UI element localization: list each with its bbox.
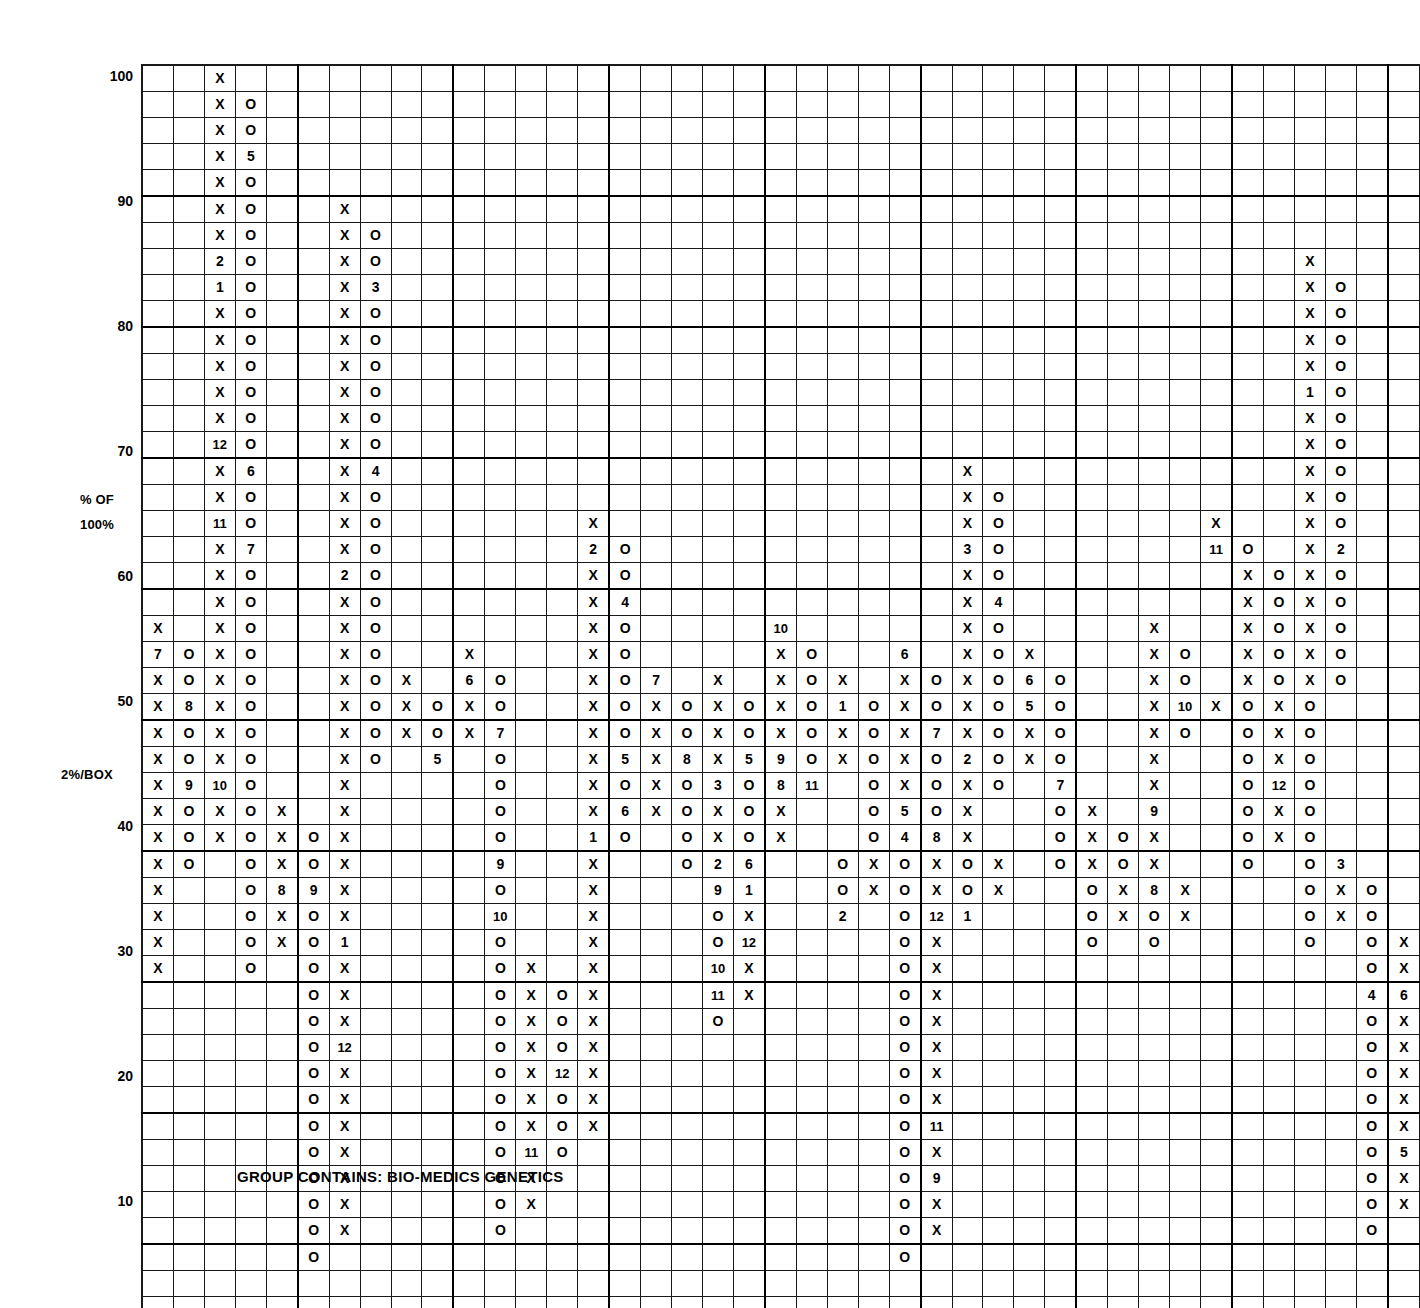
pnf-empty-cell (1014, 851, 1045, 878)
pnf-empty-cell (391, 196, 422, 223)
pnf-mark-cell: O (1325, 275, 1356, 301)
pnf-empty-cell (547, 825, 578, 852)
pnf-empty-cell (733, 275, 764, 301)
pnf-mark-cell: X (329, 668, 360, 694)
pnf-empty-cell (453, 511, 484, 537)
pnf-empty-cell (1045, 223, 1076, 249)
pnf-empty-cell (1076, 563, 1107, 590)
pnf-empty-cell (422, 616, 453, 642)
pnf-mark-cell: O (235, 930, 266, 956)
pnf-empty-cell (641, 537, 672, 563)
pnf-mark-cell: 10 (1170, 694, 1201, 721)
pnf-empty-cell (547, 1244, 578, 1271)
pnf-empty-cell (641, 327, 672, 354)
pnf-mark-cell: O (235, 118, 266, 144)
pnf-empty-cell (609, 1271, 640, 1297)
pnf-empty-cell (422, 1297, 453, 1308)
pnf-empty-cell (173, 589, 204, 616)
pnf-empty-cell (1170, 301, 1201, 328)
pnf-empty-cell (1201, 1218, 1232, 1245)
pnf-empty-cell (1325, 1218, 1356, 1245)
pnf-empty-cell (1232, 1244, 1263, 1271)
pnf-mark-cell: X (1201, 694, 1232, 721)
pnf-empty-cell (983, 275, 1014, 301)
pnf-empty-cell (641, 301, 672, 328)
pnf-empty-cell (952, 249, 983, 275)
pnf-mark-cell: O (1325, 327, 1356, 354)
pnf-mark-cell: X (1294, 563, 1325, 590)
pnf-empty-cell (547, 930, 578, 956)
pnf-empty-cell (1294, 1271, 1325, 1297)
pnf-empty-cell (516, 511, 547, 537)
pnf-empty-cell (1139, 196, 1170, 223)
pnf-mark-cell: X (391, 694, 422, 721)
pnf-empty-cell (827, 825, 858, 852)
pnf-empty-cell (952, 144, 983, 170)
pnf-empty-cell (516, 720, 547, 747)
pnf-mark-cell: X (733, 904, 764, 930)
pnf-empty-cell (1263, 118, 1294, 144)
pnf-empty-cell (1388, 825, 1420, 852)
pnf-mark-cell: X (329, 773, 360, 799)
pnf-empty-cell (1108, 1192, 1139, 1218)
pnf-mark-cell: X (266, 930, 297, 956)
pnf-empty-cell (641, 458, 672, 485)
pnf-mark-cell: X (1139, 747, 1170, 773)
pnf-empty-cell (1014, 458, 1045, 485)
pnf-empty-cell (827, 92, 858, 118)
pnf-empty-cell (952, 1140, 983, 1166)
pnf-empty-cell (1356, 65, 1387, 92)
pnf-mark-cell: O (889, 1218, 920, 1245)
pnf-empty-cell (391, 92, 422, 118)
pnf-mark-cell: X (266, 799, 297, 825)
pnf-mark-cell: O (360, 380, 391, 406)
pnf-mark-cell: X (516, 1113, 547, 1140)
pnf-empty-cell (1108, 458, 1139, 485)
pnf-empty-cell (1201, 223, 1232, 249)
pnf-empty-cell (173, 537, 204, 563)
pnf-empty-cell (921, 458, 952, 485)
pnf-empty-cell (1108, 1218, 1139, 1245)
pnf-empty-cell (1294, 1297, 1325, 1308)
pnf-empty-cell (1108, 668, 1139, 694)
pnf-mark-cell: O (796, 694, 827, 721)
pnf-empty-cell (1263, 851, 1294, 878)
pnf-empty-cell (173, 301, 204, 328)
pnf-empty-cell (422, 511, 453, 537)
pnf-empty-cell (641, 878, 672, 904)
pnf-empty-cell (1201, 170, 1232, 197)
pnf-empty-cell (733, 354, 764, 380)
pnf-empty-cell (1139, 65, 1170, 92)
pnf-empty-cell (609, 354, 640, 380)
pnf-empty-cell (1139, 118, 1170, 144)
pnf-empty-cell (266, 249, 297, 275)
pnf-empty-cell (578, 275, 609, 301)
pnf-empty-cell (921, 485, 952, 511)
pnf-mark-cell: O (360, 354, 391, 380)
pnf-mark-cell: X (329, 589, 360, 616)
pnf-empty-cell (578, 380, 609, 406)
pnf-empty-cell (360, 1140, 391, 1166)
pnf-mark-cell: O (733, 720, 764, 747)
pnf-mark-cell: X (1170, 904, 1201, 930)
pnf-empty-cell (983, 1271, 1014, 1297)
pnf-empty-cell (1139, 275, 1170, 301)
pnf-empty-cell (578, 249, 609, 275)
pnf-empty-cell (1201, 1297, 1232, 1308)
pnf-empty-cell (1045, 275, 1076, 301)
pnf-empty-cell (641, 1297, 672, 1308)
pnf-mark-cell: X (1232, 563, 1263, 590)
pnf-empty-cell (578, 92, 609, 118)
pnf-empty-cell (1388, 589, 1420, 616)
pnf-mark-cell: X (329, 982, 360, 1009)
pnf-empty-cell (1232, 65, 1263, 92)
pnf-mark-cell: 9 (173, 773, 204, 799)
pnf-mark-cell: X (516, 1061, 547, 1087)
pnf-empty-cell (266, 616, 297, 642)
pnf-empty-cell (952, 956, 983, 983)
pnf-empty-cell (453, 747, 484, 773)
pnf-empty-cell (173, 65, 204, 92)
pnf-mark-cell: X (1263, 747, 1294, 773)
pnf-empty-cell (1170, 1113, 1201, 1140)
pnf-mark-cell: O (1325, 432, 1356, 459)
